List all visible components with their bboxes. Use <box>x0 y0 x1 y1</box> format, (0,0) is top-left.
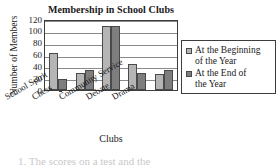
legend-label-beginning: At the Beginningof the Year <box>195 45 260 66</box>
legend-item-end: At the End ofthe Year <box>186 68 272 89</box>
bar <box>164 70 173 90</box>
legend-item-beginning: At the Beginningof the Year <box>186 45 272 66</box>
plot-area <box>44 20 178 91</box>
y-axis-tick-label: 120 <box>29 16 43 25</box>
chart-title: Membership in School Clubs <box>44 4 178 16</box>
legend-label-end: At the End ofthe Year <box>195 68 246 89</box>
y-axis-tick-label: 80 <box>33 39 42 48</box>
legend-swatch-icon-end <box>186 71 192 77</box>
page-body-text-fragment: 1. The scores on a test and the <box>18 155 150 166</box>
bar-group <box>155 21 173 90</box>
bar <box>137 73 146 90</box>
bar-group <box>49 21 67 90</box>
bar <box>155 74 164 90</box>
bar-series-container <box>45 21 177 90</box>
y-axis-tick-label: 100 <box>29 27 43 36</box>
y-axis-tick-label: 60 <box>33 51 42 60</box>
legend-swatch-icon-beginning <box>186 48 192 54</box>
chart-legend: At the Beginningof the Year At the End o… <box>181 40 276 94</box>
chart-page: Membership in School Clubs Number of Mem… <box>0 0 277 166</box>
x-axis-title: Clubs <box>44 133 178 144</box>
